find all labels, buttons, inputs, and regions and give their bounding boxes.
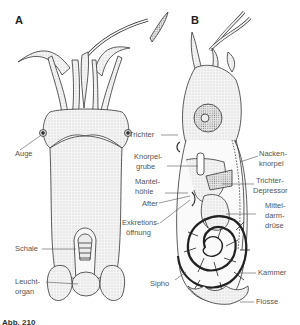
label-flosse: Flosse — [256, 298, 278, 307]
label-schale: Schale — [15, 245, 38, 254]
caption-number: Abb. 210 — [2, 318, 35, 325]
label-trichterdepressor-2: Depressor — [253, 187, 288, 196]
label-knorpelgrube-2: grube — [136, 163, 155, 172]
label-nackenknorpel-1: Nacken- — [259, 150, 287, 159]
panel-letter-a: A — [15, 14, 23, 26]
label-knorpelgrube-1: Knorpel- — [134, 153, 162, 162]
label-mitteldarmdruese-3: drüse — [265, 222, 284, 231]
label-mantelhoehle-2: höhle — [135, 188, 153, 197]
label-mantelhoehle-1: Mantel- — [135, 178, 160, 187]
specimen-b — [150, 12, 250, 304]
label-leuchtorgan-2: organ — [15, 288, 34, 297]
label-exkretion-2: öffnung — [126, 229, 151, 238]
label-leuchtorgan-1: Leucht- — [15, 278, 40, 287]
label-kammer: Kammer — [258, 269, 286, 278]
label-auge: Auge — [15, 150, 33, 159]
label-mitteldarmdruese-1: Mittel- — [265, 202, 285, 211]
specimen-a — [18, 20, 148, 301]
label-exkretion-1: Exkretions- — [122, 219, 160, 228]
label-trichter: Trichter — [129, 131, 154, 140]
label-mitteldarmdruese-2: darm- — [265, 212, 285, 221]
label-nackenknorpel-2: knorpel — [259, 160, 284, 169]
panel-letter-b: B — [191, 14, 199, 26]
figure-caption: Abb. 210 — [2, 318, 35, 325]
label-sipho: Sipho — [150, 280, 169, 289]
label-trichterdepressor-1: Trichter- — [256, 177, 284, 186]
label-after: After — [142, 200, 158, 209]
